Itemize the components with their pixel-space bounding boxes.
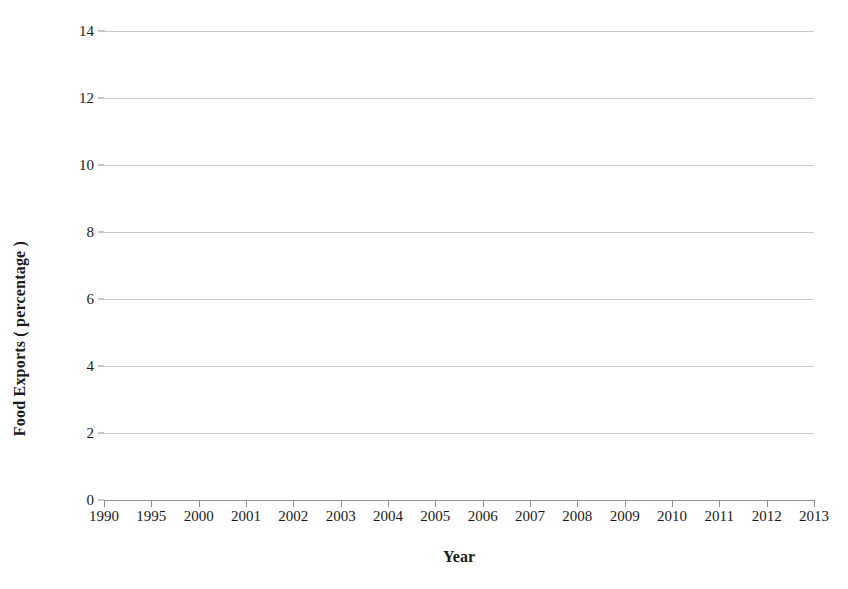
x-tick-mark [104,500,105,507]
x-tick-mark [388,500,389,507]
x-tick-label: 2007 [515,508,545,525]
x-tick-mark [577,500,578,507]
x-axis-ticks: 1990199520002001200220032004200520062007… [0,508,848,538]
x-tick-mark [246,500,247,507]
x-tick-mark [530,500,531,507]
gridline [104,366,814,367]
x-tick-mark [483,500,484,507]
chart-figure: Food Exports ( percentage ) 02468101214 … [0,0,848,589]
x-axis-title: Year [104,548,814,566]
x-tick-mark [435,500,436,507]
plot-area [104,31,814,500]
x-tick-label: 2001 [231,508,261,525]
x-tick-label: 2009 [610,508,640,525]
x-tick-label: 1995 [136,508,166,525]
x-tick-mark [293,500,294,507]
gridline [104,165,814,166]
x-tick-mark [625,500,626,507]
x-tick-label: 2010 [657,508,687,525]
x-tick-mark [341,500,342,507]
x-tick-mark [719,500,720,507]
plot-background [104,31,814,500]
x-tick-label: 2006 [468,508,498,525]
x-tick-mark [814,500,815,507]
x-tick-label: 2000 [184,508,214,525]
x-tick-label: 2008 [562,508,592,525]
x-tick-mark [767,500,768,507]
x-tick-mark [672,500,673,507]
gridline [104,500,814,501]
x-tick-label: 2005 [420,508,450,525]
x-tick-label: 2004 [373,508,403,525]
y-axis-ticks: 02468101214 [0,31,104,500]
x-tick-label: 2002 [278,508,308,525]
x-tick-label: 2013 [799,508,829,525]
gridline [104,31,814,32]
gridline [104,98,814,99]
x-tick-label: 2003 [326,508,356,525]
gridline [104,232,814,233]
gridline [104,299,814,300]
x-tick-label: 2012 [752,508,782,525]
x-tick-label: 2011 [705,508,734,525]
x-tick-label: 1990 [89,508,119,525]
x-tick-mark [151,500,152,507]
gridline [104,433,814,434]
x-tick-mark [199,500,200,507]
